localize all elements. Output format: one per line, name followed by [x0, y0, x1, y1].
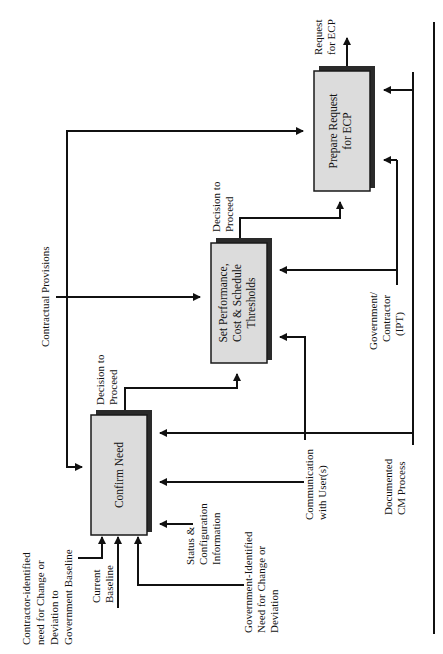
svg-text:for ECP: for ECP	[325, 19, 337, 55]
svg-text:Current: Current	[90, 569, 102, 603]
svg-text:Decision to: Decision to	[210, 181, 222, 232]
svg-text:Proceed: Proceed	[107, 369, 119, 405]
svg-text:Contractor-identified: Contractor-identified	[20, 552, 32, 645]
label-gov-need: Government-Identified Need for Change or…	[242, 531, 280, 633]
svg-text:(IPT): (IPT)	[393, 312, 406, 336]
svg-text:Government/: Government/	[367, 291, 379, 350]
arrow-decision-2	[240, 202, 340, 238]
label-request-ecp: Request for ECP	[312, 19, 337, 55]
svg-text:Deviation: Deviation	[268, 589, 280, 633]
idef0-diagram: Confirm Need Set Performance, Cost & Sch…	[0, 0, 443, 654]
arrow-cm-to-set	[280, 337, 305, 440]
box-set-label-3: Thresholds	[245, 277, 257, 329]
box-confirm-need-label: Confirm Need	[113, 442, 125, 508]
arrow-contractual-to-confirm	[67, 300, 82, 467]
svg-text:Deviation to: Deviation to	[48, 590, 60, 645]
svg-text:Decision to: Decision to	[94, 354, 106, 405]
label-current-baseline: Current Baseline	[90, 565, 115, 603]
arrow-contractor-need	[78, 537, 102, 558]
svg-text:Proceed: Proceed	[223, 196, 235, 232]
label-contractual-provisions: Contractual Provisions	[39, 246, 51, 347]
svg-text:Configuration: Configuration	[197, 503, 209, 565]
svg-text:need for Change or: need for Change or	[34, 560, 46, 645]
svg-text:Government-Identified: Government-Identified	[242, 531, 254, 633]
svg-text:with User(s): with User(s)	[316, 465, 329, 520]
svg-text:Status &: Status &	[184, 526, 196, 565]
svg-text:Baseline: Baseline	[103, 565, 115, 603]
svg-text:Request: Request	[312, 20, 324, 55]
label-gov-contractor: Government/ Contractor (IPT)	[367, 291, 406, 350]
box-prepare-label-2: for ECP	[341, 112, 353, 149]
svg-text:Communication: Communication	[303, 449, 315, 520]
label-contractor-need: Contractor-identified need for Change or…	[20, 549, 74, 645]
label-decision-1: Decision to Proceed	[94, 354, 119, 405]
label-decision-2: Decision to Proceed	[210, 181, 235, 232]
arrow-decision-1	[125, 374, 237, 410]
label-communication: Communication with User(s)	[303, 449, 329, 520]
svg-text:Need for Change or: Need for Change or	[255, 546, 267, 633]
box-set-label-1: Set Performance,	[217, 263, 230, 342]
label-documented-cm: Documented CM Process	[382, 458, 407, 515]
svg-text:Contractual Provisions: Contractual Provisions	[39, 246, 51, 347]
box-prepare-label-1: Prepare Request	[327, 93, 340, 169]
box-prepare-request: Prepare Request for ECP	[314, 66, 375, 191]
box-confirm-need: Confirm Need	[91, 410, 152, 535]
box-set-label-2: Cost & Schedule	[231, 264, 243, 342]
svg-text:Contractor: Contractor	[380, 295, 392, 342]
svg-text:CM Process: CM Process	[395, 462, 407, 515]
svg-text:Documented: Documented	[382, 458, 394, 515]
svg-text:Information: Information	[210, 512, 222, 565]
box-set-thresholds: Set Performance, Cost & Schedule Thresho…	[211, 238, 272, 363]
label-status-config: Status & Configuration Information	[184, 503, 222, 565]
svg-text:Government Baseline: Government Baseline	[62, 549, 74, 645]
